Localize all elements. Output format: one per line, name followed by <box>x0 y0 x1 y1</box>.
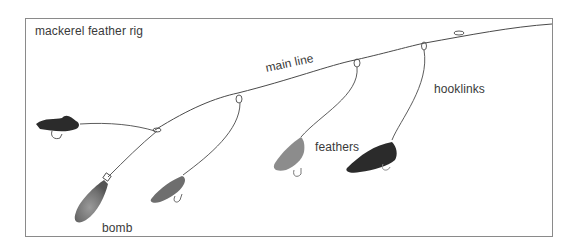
bomb-icon <box>75 173 111 223</box>
label-hooklinks: hooklinks <box>434 82 485 96</box>
feather-icon <box>36 116 79 139</box>
feather-icon <box>151 176 185 203</box>
main-line <box>155 24 552 130</box>
diagram-title: mackerel feather rig <box>35 24 143 38</box>
label-bomb: bomb <box>102 221 132 235</box>
swivel-icon <box>153 31 464 132</box>
feather-icon <box>274 137 305 176</box>
label-feathers: feathers <box>315 140 359 154</box>
